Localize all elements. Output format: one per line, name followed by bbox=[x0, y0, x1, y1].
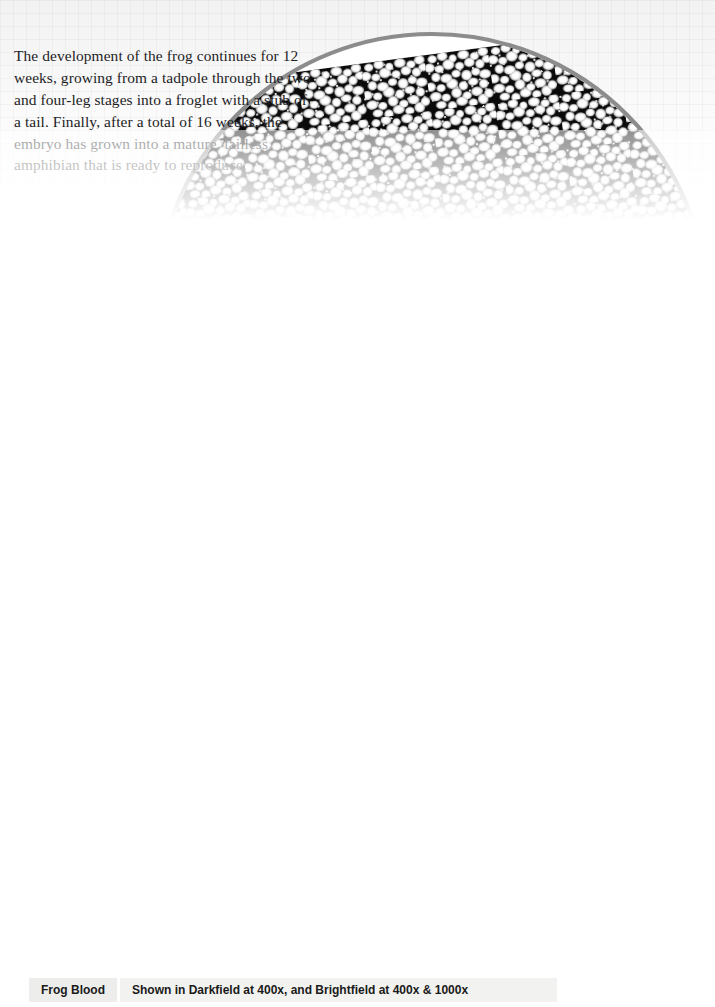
frog-blood-caption-description: Shown in Darkfield at 400x, and Brightfi… bbox=[117, 978, 557, 1002]
intro-paragraph: The development of the frog continues fo… bbox=[14, 45, 314, 176]
page-canvas: Frog Skin 1000x The development of the f… bbox=[0, 0, 715, 1007]
term-haemorythrin: haemorythrin bbox=[513, 762, 597, 779]
frog-blood-caption-bar: Frog Blood Shown in Darkfield at 400x, a… bbox=[29, 978, 557, 1002]
frog-blood-paragraph: Frog blood is very similar to most other… bbox=[422, 651, 710, 847]
blood-text-part-3: , and bbox=[597, 762, 627, 779]
term-hemoglobin: hemoglobin bbox=[445, 697, 520, 714]
frog-skin-caption-title: Frog Skin bbox=[296, 459, 392, 485]
frog-blood-caption-title: Frog Blood bbox=[29, 978, 117, 1002]
frog-skin-caption-magnification: 1000x bbox=[392, 459, 715, 485]
frog-skin-caption-bar: Frog Skin 1000x bbox=[296, 459, 715, 485]
term-chlorocruorin: chlorocruorin bbox=[422, 784, 507, 801]
frog-photo bbox=[10, 452, 410, 842]
